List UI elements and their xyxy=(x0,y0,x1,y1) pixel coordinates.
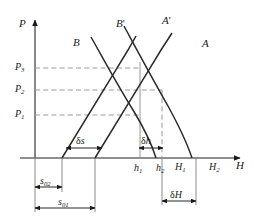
figure-canvas: P H P3 P2 P1 h1 h2 H1 H2 B B' A' A δs δh… xyxy=(0,0,254,222)
x-tick-h1: h1 xyxy=(134,163,142,173)
x-tick-H1: H1 xyxy=(175,162,186,172)
dim-label-delta-s-base: s xyxy=(81,135,85,146)
x-tick-H1-sub: 1 xyxy=(182,166,185,173)
y-tick-p2: P2 xyxy=(15,84,25,94)
x-tick-H2-sub: 2 xyxy=(216,166,219,173)
diagram-svg xyxy=(0,0,254,222)
curve-label-Ap-text: A xyxy=(162,14,169,26)
curve-label-B: B xyxy=(73,37,80,48)
x-tick-h2: h2 xyxy=(156,163,164,173)
curve-label-A: A xyxy=(202,38,209,49)
x-tick-h1-sub: 1 xyxy=(139,167,142,174)
dim-label-delta-H-base: H xyxy=(175,189,182,200)
y-tick-p3: P3 xyxy=(15,62,25,72)
y-tick-p3-sub: 3 xyxy=(21,66,24,73)
dim-label-delta-h: δh xyxy=(141,136,151,146)
curve-label-A-prime: A' xyxy=(162,15,171,26)
curve-label-Ap-prime: ' xyxy=(169,14,171,26)
dim-label-s01: s01 xyxy=(58,197,69,207)
x-tick-h2-sub: 2 xyxy=(161,167,164,174)
curve-B-prime xyxy=(124,26,192,158)
x-axis-label: H xyxy=(236,160,244,171)
x-tick-H2: H2 xyxy=(209,162,220,172)
curve-label-Bp-prime: ' xyxy=(123,17,125,29)
y-axis-label: P xyxy=(19,18,26,29)
dim-label-delta-h-base: h xyxy=(146,135,151,146)
dim-label-delta-s: δs xyxy=(76,136,85,146)
y-tick-p1: P1 xyxy=(15,109,25,119)
dim-label-s02-sub: 02 xyxy=(44,180,51,187)
curve-label-B-text: B xyxy=(73,36,80,48)
curve-A xyxy=(95,33,172,158)
y-tick-p2-sub: 2 xyxy=(21,88,24,95)
curve-label-A-text: A xyxy=(202,37,209,49)
dim-label-s02: s02 xyxy=(40,176,51,186)
dim-label-s01-sub: 01 xyxy=(62,201,69,208)
y-tick-p1-sub: 1 xyxy=(21,113,24,120)
curve-label-B-prime: B' xyxy=(116,18,125,29)
curve-label-Bp-text: B xyxy=(116,17,123,29)
dim-label-delta-H: δH xyxy=(170,190,182,200)
